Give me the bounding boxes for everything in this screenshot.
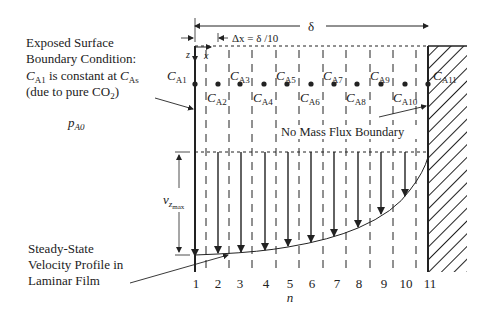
svg-text:Laminar Film: Laminar Film bbox=[28, 273, 100, 288]
svg-text:Steady-State: Steady-State bbox=[28, 241, 94, 256]
boundary-condition-arrow bbox=[155, 98, 193, 109]
axis-x-label: x bbox=[203, 50, 209, 61]
svg-text:7: 7 bbox=[334, 276, 341, 291]
svg-text:CA7: CA7 bbox=[323, 68, 343, 85]
svg-text:(due to pure CO2): (due to pure CO2) bbox=[26, 84, 119, 101]
svg-text:CA1: CA1 bbox=[167, 68, 187, 85]
n-axis-label: n bbox=[287, 290, 294, 305]
boundary-condition-text: Exposed Surface Boundary Condition: CA1 … bbox=[26, 35, 139, 101]
node-labels: CA1 CA2 CA3 CA4 CA5 CA6 CA7 CA8 CA9 CA10… bbox=[167, 68, 457, 107]
svg-text:Velocity Profile in: Velocity Profile in bbox=[28, 257, 124, 272]
svg-text:CA10: CA10 bbox=[393, 90, 418, 107]
delta-label: δ bbox=[308, 19, 314, 34]
svg-text:2: 2 bbox=[215, 276, 222, 291]
pressure-label: pA0 bbox=[67, 115, 85, 132]
svg-text:8: 8 bbox=[356, 276, 363, 291]
svg-text:CA8: CA8 bbox=[346, 90, 366, 107]
svg-text:CA3: CA3 bbox=[230, 68, 250, 85]
svg-text:CA9: CA9 bbox=[370, 68, 390, 85]
svg-text:Boundary Condition:: Boundary Condition: bbox=[26, 51, 136, 66]
svg-text:6: 6 bbox=[309, 276, 316, 291]
no-flux-label: No Mass Flux Boundary bbox=[281, 125, 405, 139]
film-diagram: δ Δx = δ /10 z x CA1 CA2 CA3 CA4 CA5 CA6… bbox=[0, 0, 491, 315]
svg-text:CA5: CA5 bbox=[276, 68, 296, 85]
svg-text:3: 3 bbox=[237, 276, 244, 291]
svg-text:9: 9 bbox=[381, 276, 388, 291]
no-flux-arrow bbox=[379, 106, 426, 117]
svg-text:5: 5 bbox=[287, 276, 294, 291]
velocity-profile-arrow bbox=[130, 255, 228, 283]
axis-z-label: z bbox=[185, 49, 190, 60]
node-dots bbox=[192, 81, 430, 86]
dx-label: Δx = δ /10 bbox=[232, 32, 279, 44]
svg-text:10: 10 bbox=[400, 276, 413, 291]
svg-text:4: 4 bbox=[263, 276, 270, 291]
svg-text:CA1 is constant at CAs: CA1 is constant at CAs bbox=[26, 68, 139, 85]
velocity-arrows bbox=[195, 152, 405, 256]
velocity-profile-text: Steady-State Velocity Profile in Laminar… bbox=[28, 241, 124, 288]
svg-text:CA6: CA6 bbox=[300, 90, 320, 107]
svg-text:1: 1 bbox=[193, 276, 200, 291]
node-index-labels: 1 2 3 4 5 6 7 8 9 10 11 bbox=[193, 276, 437, 291]
svg-text:Exposed Surface: Exposed Surface bbox=[26, 35, 114, 50]
svg-text:CA2: CA2 bbox=[207, 90, 227, 107]
vz-max-label: vzmax bbox=[163, 192, 185, 211]
svg-text:11: 11 bbox=[424, 276, 437, 291]
svg-text:CA4: CA4 bbox=[253, 90, 273, 107]
